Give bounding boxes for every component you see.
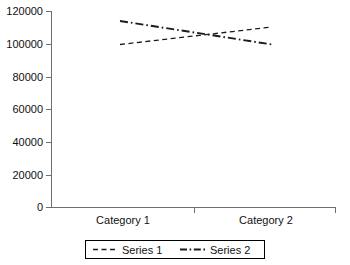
x-axis-tick-labels: Category 1 Category 2 [96, 214, 293, 226]
y-axis-ticks [46, 12, 52, 208]
y-tick-label: 80000 [12, 71, 43, 83]
y-tick-label: 40000 [12, 136, 43, 148]
x-tick-label: Category 2 [239, 214, 293, 226]
chart-legend: Series 1 Series 2 [86, 241, 265, 259]
y-axis-tick-labels: 120000 100000 80000 60000 40000 20000 0 [6, 5, 43, 213]
y-tick-label: 120000 [6, 5, 43, 17]
x-axis-ticks [195, 208, 336, 214]
series-2-line [120, 21, 272, 45]
y-tick-label: 100000 [6, 38, 43, 50]
line-chart: 120000 100000 80000 60000 40000 20000 0 … [0, 0, 350, 265]
x-tick-label: Category 1 [96, 214, 150, 226]
y-tick-label: 20000 [12, 169, 43, 181]
legend-label-series-2: Series 2 [210, 244, 250, 256]
chart-canvas: 120000 100000 80000 60000 40000 20000 0 … [0, 0, 350, 265]
legend-label-series-1: Series 1 [122, 244, 162, 256]
y-tick-label: 0 [37, 201, 43, 213]
y-tick-label: 60000 [12, 103, 43, 115]
